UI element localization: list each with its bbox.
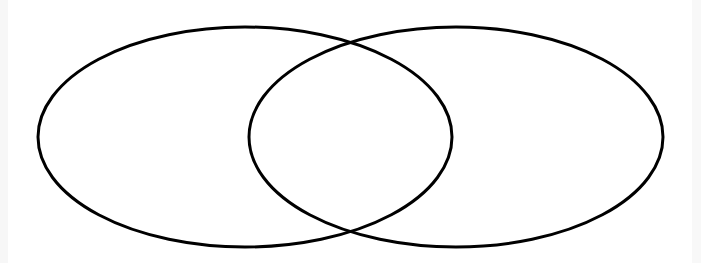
venn-diagram-canvas <box>0 0 701 263</box>
left-set-ellipse <box>38 27 452 247</box>
right-set-ellipse <box>249 27 663 247</box>
venn-diagram <box>0 0 701 263</box>
